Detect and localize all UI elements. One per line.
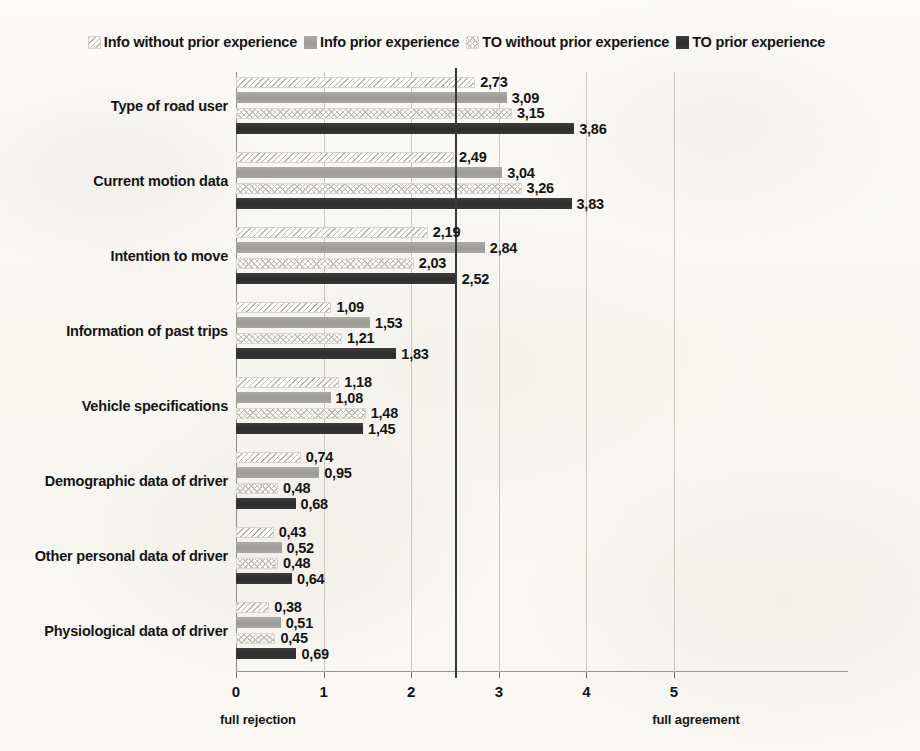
bar[interactable] bbox=[236, 167, 502, 178]
bar-row: 1,45 bbox=[236, 423, 848, 434]
bar-value-label: 1,18 bbox=[344, 374, 371, 390]
category-label-5: Demographic data of driver bbox=[2, 473, 228, 489]
bar[interactable] bbox=[236, 573, 292, 584]
bar-value-label: 0,95 bbox=[324, 464, 351, 480]
bar[interactable] bbox=[236, 242, 485, 253]
bar[interactable] bbox=[236, 183, 522, 194]
bar[interactable] bbox=[236, 498, 296, 509]
bar-value-label: 0,48 bbox=[283, 555, 310, 571]
bar-row: 1,48 bbox=[236, 408, 848, 419]
axis-caption-full-rejection: full rejection bbox=[220, 712, 296, 727]
category-label-6: Other personal data of driver bbox=[2, 548, 228, 564]
bar-value-label: 0,52 bbox=[287, 539, 314, 555]
legend-label-2: TO without prior experience bbox=[482, 34, 676, 50]
tick-mark-3 bbox=[499, 672, 500, 678]
legend-swatch-icon-2 bbox=[466, 36, 479, 49]
legend-item-1[interactable]: Info prior experience bbox=[304, 34, 466, 50]
chart-legend: Info without prior experienceInfo prior … bbox=[0, 34, 920, 50]
bar[interactable] bbox=[236, 467, 319, 478]
bar-group-5: 0,740,950,480,68 bbox=[236, 447, 848, 522]
bar-row: 0,51 bbox=[236, 617, 848, 628]
bar-value-label: 0,68 bbox=[301, 495, 328, 511]
legend-item-0[interactable]: Info without prior experience bbox=[88, 34, 304, 50]
bar-row: 0,45 bbox=[236, 633, 848, 644]
tick-mark-2 bbox=[411, 672, 412, 678]
bar-row: 1,09 bbox=[236, 302, 848, 313]
bar[interactable] bbox=[236, 483, 278, 494]
legend-swatch-icon-3 bbox=[676, 36, 689, 49]
bar-value-label: 3,04 bbox=[507, 164, 534, 180]
legend-item-3[interactable]: TO prior experience bbox=[676, 34, 832, 50]
bar-row: 0,69 bbox=[236, 648, 848, 659]
bar[interactable] bbox=[236, 377, 339, 388]
bar-row: 2,49 bbox=[236, 152, 848, 163]
bar[interactable] bbox=[236, 558, 278, 569]
bar-row: 3,86 bbox=[236, 123, 848, 134]
tick-label-5: 5 bbox=[670, 683, 678, 700]
bar[interactable] bbox=[236, 348, 396, 359]
bar[interactable] bbox=[236, 227, 428, 238]
bar-row: 0,48 bbox=[236, 483, 848, 494]
bar-value-label: 1,08 bbox=[336, 389, 363, 405]
legend-item-2[interactable]: TO without prior experience bbox=[466, 34, 676, 50]
bar-row: 2,19 bbox=[236, 227, 848, 238]
bar-row: 2,03 bbox=[236, 258, 848, 269]
bar-value-label: 3,26 bbox=[527, 180, 554, 196]
bar[interactable] bbox=[236, 152, 454, 163]
bar[interactable] bbox=[236, 333, 342, 344]
bar-value-label: 2,49 bbox=[459, 149, 486, 165]
bar[interactable] bbox=[236, 258, 414, 269]
bar-row: 1,53 bbox=[236, 317, 848, 328]
bar[interactable] bbox=[236, 452, 301, 463]
bar[interactable] bbox=[236, 273, 457, 284]
bar-value-label: 1,09 bbox=[336, 299, 363, 315]
bar[interactable] bbox=[236, 108, 512, 119]
bar[interactable] bbox=[236, 648, 296, 659]
bar[interactable] bbox=[236, 602, 269, 613]
grouped-bar-chart: Info without prior experienceInfo prior … bbox=[0, 0, 920, 751]
category-label-1: Current motion data bbox=[2, 173, 228, 189]
bar-group-2: 2,192,842,032,52 bbox=[236, 222, 848, 297]
bar-row: 2,73 bbox=[236, 77, 848, 88]
bar[interactable] bbox=[236, 302, 331, 313]
tick-label-3: 3 bbox=[495, 683, 503, 700]
bar-row: 0,68 bbox=[236, 498, 848, 509]
legend-swatch-icon-1 bbox=[304, 36, 317, 49]
bar[interactable] bbox=[236, 198, 572, 209]
bar-row: 0,43 bbox=[236, 527, 848, 538]
tick-mark-0 bbox=[236, 672, 237, 678]
bar[interactable] bbox=[236, 317, 370, 328]
bar-row: 1,21 bbox=[236, 333, 848, 344]
tick-mark-1 bbox=[324, 672, 325, 678]
bar[interactable] bbox=[236, 423, 363, 434]
bar-row: 0,74 bbox=[236, 452, 848, 463]
bar[interactable] bbox=[236, 617, 281, 628]
bar[interactable] bbox=[236, 392, 331, 403]
category-label-2: Intention to move bbox=[2, 248, 228, 264]
bar-value-label: 0,48 bbox=[283, 480, 310, 496]
bar[interactable] bbox=[236, 633, 275, 644]
tick-label-4: 4 bbox=[582, 683, 590, 700]
bar-row: 3,04 bbox=[236, 167, 848, 178]
category-label-4: Vehicle specifications bbox=[2, 398, 228, 414]
bar[interactable] bbox=[236, 123, 574, 134]
bar-row: 1,83 bbox=[236, 348, 848, 359]
bar-value-label: 0,64 bbox=[297, 570, 324, 586]
bar-row: 2,52 bbox=[236, 273, 848, 284]
bar-row: 0,64 bbox=[236, 573, 848, 584]
plot-area: 2,733,093,153,862,493,043,263,832,192,84… bbox=[236, 72, 848, 672]
bar[interactable] bbox=[236, 77, 475, 88]
category-label-3: Information of past trips bbox=[2, 323, 228, 339]
bar-value-label: 0,43 bbox=[279, 524, 306, 540]
bar-value-label: 0,38 bbox=[274, 599, 301, 615]
bar[interactable] bbox=[236, 92, 507, 103]
bar[interactable] bbox=[236, 408, 366, 419]
bar[interactable] bbox=[236, 527, 274, 538]
bar-value-label: 0,51 bbox=[286, 614, 313, 630]
legend-label-1: Info prior experience bbox=[320, 34, 466, 50]
bar-group-1: 2,493,043,263,83 bbox=[236, 147, 848, 222]
bar[interactable] bbox=[236, 542, 282, 553]
bar-value-label: 2,03 bbox=[419, 255, 446, 271]
legend-label-0: Info without prior experience bbox=[104, 34, 304, 50]
tick-mark-5 bbox=[674, 672, 675, 678]
